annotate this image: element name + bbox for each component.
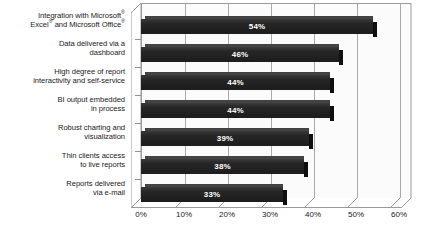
bar-side-face — [330, 106, 334, 121]
category-label-line2: to live reports — [80, 160, 125, 169]
bar-side-face — [330, 78, 334, 93]
y-axis-tick — [135, 151, 141, 152]
plot-area: 54% 46% 44% 44% 39% — [131, 3, 411, 208]
bar-side-face — [283, 190, 287, 205]
category-label-data-delivered-dashboard: Data delivered via a dashboard — [0, 39, 125, 58]
bar-side-face — [339, 50, 343, 65]
bar-side-face — [373, 22, 377, 37]
category-label-line2b: and Microsoft Office — [53, 20, 121, 29]
bar-reports-delivered-email[interactable]: 33% — [141, 187, 283, 202]
y-axis-tick — [135, 123, 141, 124]
bar-robust-charting-visualization[interactable]: 39% — [141, 131, 309, 146]
category-axis-labels: Integration with Microsoft® Excel® and M… — [0, 0, 131, 237]
category-label-line1: High degree of report — [54, 67, 125, 76]
x-axis-label-0: 0% — [121, 210, 161, 219]
x-axis-label-10: 10% — [164, 210, 204, 219]
bar-value-label: 46% — [141, 47, 339, 62]
bar-value-label: 44% — [141, 103, 330, 118]
category-label-line1: BI output embedded — [58, 95, 126, 104]
bar-value-label: 33% — [141, 187, 283, 202]
x-axis-label-20: 20% — [207, 210, 247, 219]
category-label-thin-clients-live-reports: Thin clients access to live reports — [0, 151, 125, 170]
y-axis-tick — [135, 179, 141, 180]
bar-bi-output-embedded[interactable]: 44% — [141, 103, 330, 118]
bar-data-delivered-dashboard[interactable]: 46% — [141, 47, 339, 62]
bar-value-label: 38% — [141, 159, 304, 174]
x-axis-labels: 0% 10% 20% 30% 40% 50% 60% — [131, 210, 421, 224]
category-label-line2a: Excel — [30, 20, 48, 29]
category-label-bi-output-embedded: BI output embedded in process — [0, 95, 125, 114]
bar-report-interactivity-self-service[interactable]: 44% — [141, 75, 330, 90]
bar-value-label: 44% — [141, 75, 330, 90]
bar-value-label: 54% — [141, 19, 373, 34]
registered-mark-icon: ® — [121, 19, 125, 25]
category-label-reports-delivered-email: Reports delivered via e-mail — [0, 179, 125, 198]
category-label-line1: Thin clients access — [62, 151, 125, 160]
category-label-line2: dashboard — [90, 48, 125, 57]
category-label-robust-charting-visualization: Robust charting and visualization — [0, 123, 125, 142]
x-axis-label-40: 40% — [293, 210, 333, 219]
bar-integration-microsoft-excel-office[interactable]: 54% — [141, 19, 373, 34]
category-label-line2: via e-mail — [93, 188, 125, 197]
plot-top-edge — [141, 3, 411, 4]
x-axis-label-50: 50% — [336, 210, 376, 219]
category-label-line2: interactivity and self-service — [33, 76, 125, 85]
category-label-integration-microsoft-excel-office: Integration with Microsoft® Excel® and M… — [0, 11, 125, 30]
x-axis-label-30: 30% — [250, 210, 290, 219]
x-axis-label-60: 60% — [379, 210, 419, 219]
category-label-line1: Data delivered via a — [59, 39, 125, 48]
bar-thin-clients-live-reports[interactable]: 38% — [141, 159, 304, 174]
axis-depth-right — [400, 3, 412, 208]
category-label-report-interactivity-self-service: High degree of report interactivity and … — [0, 67, 125, 86]
bar-chart: Integration with Microsoft® Excel® and M… — [0, 0, 424, 237]
y-axis-tick — [135, 39, 141, 40]
bar-side-face — [309, 134, 313, 149]
category-label-line2: in process — [91, 104, 125, 113]
registered-mark-icon: ® — [121, 9, 125, 15]
category-label-line1: Robust charting and — [58, 123, 125, 132]
bar-value-label: 39% — [141, 131, 309, 146]
x-axis-front-line — [131, 207, 401, 208]
y-axis-tick — [135, 67, 141, 68]
bar-side-face — [304, 162, 308, 177]
y-axis-tick — [135, 95, 141, 96]
category-label-line1: Reports delivered — [66, 179, 125, 188]
category-label-line2: visualization — [84, 132, 125, 141]
